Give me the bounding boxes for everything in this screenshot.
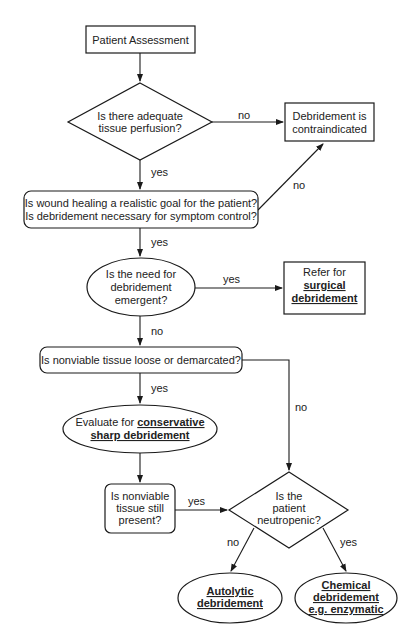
node-label: Debridement is	[293, 110, 367, 122]
node-label-bold: Chemical	[322, 579, 371, 591]
node-label-bold: surgical	[303, 279, 345, 291]
node-still-present: Is nonviable tissue still present?	[105, 484, 175, 533]
node-label-plain: Evaluate for	[75, 416, 137, 428]
node-contraindicated: Debridement is contraindicated	[285, 103, 374, 141]
node-label: Is the need for	[106, 268, 177, 280]
node-perfusion-decision: Is there adequate tissue perfusion?	[68, 83, 212, 160]
edge-label-loose-yes: yes	[151, 382, 169, 394]
node-label: Is the	[276, 490, 303, 502]
node-conservative-sharp: Evaluate for conservative sharp debridem…	[63, 405, 217, 453]
node-label: tissue perfusion?	[98, 122, 181, 134]
edge-neutropenic-yes	[323, 528, 346, 571]
edge-label-neutropenic-no: no	[227, 536, 239, 548]
node-label: Patient Assessment	[92, 34, 189, 46]
node-label: Evaluate for conservative	[75, 416, 204, 428]
node-label: tissue still	[116, 502, 164, 514]
edge-label-perfusion-yes: yes	[151, 166, 169, 178]
node-autolytic: Autolytic debridement	[178, 573, 282, 623]
node-surgical-referral: Refer for surgical debridement	[284, 262, 365, 314]
node-label: Is nonviable tissue loose or demarcated?	[41, 354, 241, 366]
edge-label-still-yes: yes	[188, 495, 206, 507]
node-label-bold: conservative	[137, 416, 204, 428]
edge-label-neutropenic-yes: yes	[340, 536, 358, 548]
node-label-bold: debridement	[197, 597, 263, 609]
node-label-bold: Autolytic	[206, 585, 253, 597]
node-chemical: Chemical debridement e.g. enzymatic	[295, 573, 397, 623]
node-label: debridement	[110, 281, 171, 293]
node-label-bold: sharp debridement	[90, 429, 189, 441]
edge-goal-no	[258, 144, 323, 210]
node-neutropenic-decision: Is the patient neutropenic?	[229, 472, 348, 548]
edge-neutropenic-no	[231, 528, 254, 571]
node-label: contraindicated	[292, 123, 367, 135]
node-label: Is nonviable	[111, 490, 170, 502]
node-label: patient	[272, 502, 305, 514]
edge-loose-no	[242, 360, 289, 470]
edge-label-loose-no: no	[295, 401, 307, 413]
node-label-bold: e.g. enzymatic	[308, 603, 383, 615]
edge-label-emergent-yes: yes	[223, 273, 241, 285]
node-label-bold: debridement	[313, 591, 379, 603]
node-label: Is there adequate	[97, 110, 183, 122]
node-realistic-goal: Is wound healing a realistic goal for th…	[24, 191, 258, 228]
node-label: Refer for	[303, 266, 346, 278]
flowchart: no yes no yes yes no yes no yes no yes P…	[0, 0, 419, 638]
node-patient-assessment: Patient Assessment	[86, 26, 195, 53]
edge-label-emergent-no: no	[151, 325, 163, 337]
node-label: present?	[119, 514, 162, 526]
node-label: Is wound healing a realistic goal for th…	[25, 197, 257, 209]
edge-label-goal-yes: yes	[151, 236, 169, 248]
node-label-bold: debridement	[291, 292, 357, 304]
edge-label-goal-no: no	[293, 179, 305, 191]
node-emergent: Is the need for debridement emergent?	[87, 258, 195, 316]
node-label: emergent?	[115, 294, 168, 306]
node-label: neutropenic?	[257, 514, 321, 526]
node-loose-demarcated: Is nonviable tissue loose or demarcated?	[40, 347, 242, 373]
edge-label-perfusion-no: no	[238, 109, 250, 121]
node-label: Is debridement necessary for symptom con…	[25, 210, 257, 222]
